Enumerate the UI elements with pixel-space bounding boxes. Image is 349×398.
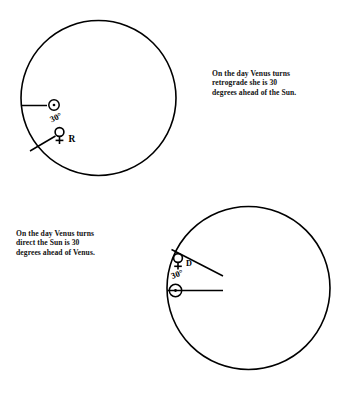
direct-angle-label-group: 30° <box>170 267 185 281</box>
direct-wheel-circle <box>167 207 330 370</box>
direct-venus-status-label: D <box>186 259 192 268</box>
retrograde-venus-symbol <box>55 128 64 144</box>
retrograde-wheel-circle <box>21 21 176 176</box>
direct-venus-symbol <box>174 254 183 270</box>
retrograde-sun-symbol <box>49 100 59 110</box>
caption-direct: On the day Venus turns direct the Sun is… <box>16 229 140 257</box>
figure-root: 30° R D <box>0 0 349 398</box>
retrograde-angle-label: 30° <box>48 110 64 124</box>
caption-retrograde: On the day Venus turns retrograde she is… <box>212 69 336 97</box>
direct-angle-label: 30° <box>170 267 185 281</box>
retrograde-venus-radius-line <box>30 136 56 151</box>
retrograde-angle-label-group: 30° <box>48 110 64 124</box>
retrograde-wheel: 30° R <box>21 21 176 176</box>
retrograde-venus-status-label: R <box>69 134 76 144</box>
diagram-canvas: 30° R D <box>0 0 349 398</box>
direct-wheel: D 30° <box>167 207 330 370</box>
